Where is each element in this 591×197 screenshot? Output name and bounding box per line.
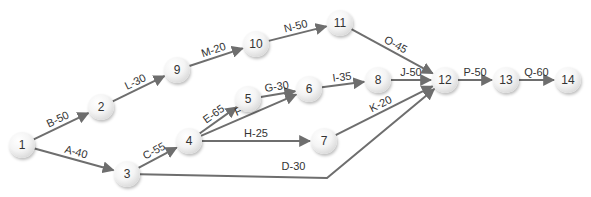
node-label: 1 [19, 138, 26, 152]
node-13: 13 [493, 67, 519, 93]
edge-label: C-55 [140, 140, 167, 162]
node-3: 3 [114, 161, 140, 187]
node-1: 1 [9, 132, 35, 158]
edge-label: D-30 [282, 160, 306, 172]
node-7: 7 [311, 128, 337, 154]
node-11: 11 [327, 10, 353, 36]
node-10: 10 [243, 31, 269, 57]
node-label: 14 [561, 73, 574, 87]
node-14: 14 [555, 67, 581, 93]
node-label: 10 [249, 37, 262, 51]
node-label: 7 [321, 134, 328, 148]
node-8: 8 [365, 67, 391, 93]
node-label: 3 [124, 167, 131, 181]
edge-label: K-20 [367, 93, 393, 114]
edge-label: O-45 [382, 33, 409, 55]
node-label: 13 [499, 73, 512, 87]
edge-label: L-30 [123, 71, 148, 91]
node-12: 12 [432, 67, 458, 93]
edge-label: I-35 [332, 69, 352, 83]
edge-label: M-20 [200, 40, 228, 59]
edges-layer: A-40B-50C-55D-30E-65F-65G-30H-25I-35J-50… [0, 0, 591, 197]
edge-arrow-i [322, 82, 364, 88]
node-label: 5 [245, 92, 252, 106]
node-9: 9 [164, 57, 190, 83]
node-4: 4 [176, 128, 202, 154]
node-label: 9 [174, 63, 181, 77]
network-diagram: A-40B-50C-55D-30E-65F-65G-30H-25I-35J-50… [0, 0, 591, 197]
node-6: 6 [296, 76, 322, 102]
node-5: 5 [235, 86, 261, 112]
edge-label: B-50 [45, 109, 71, 130]
edge-label: H-25 [244, 127, 268, 139]
node-label: 8 [375, 73, 382, 87]
edge-label: P-50 [463, 66, 486, 78]
edge-label: G-30 [264, 78, 290, 94]
node-label: 2 [98, 100, 105, 114]
edge-label: J-50 [400, 66, 421, 78]
node-2: 2 [88, 94, 114, 120]
node-label: 12 [438, 73, 451, 87]
edge-label: Q-60 [524, 66, 548, 78]
node-label: 4 [186, 134, 193, 148]
node-label: 6 [306, 82, 313, 96]
node-label: 11 [334, 16, 346, 30]
edge-label: E-65 [201, 102, 227, 125]
edge-arrow-k [336, 86, 433, 135]
